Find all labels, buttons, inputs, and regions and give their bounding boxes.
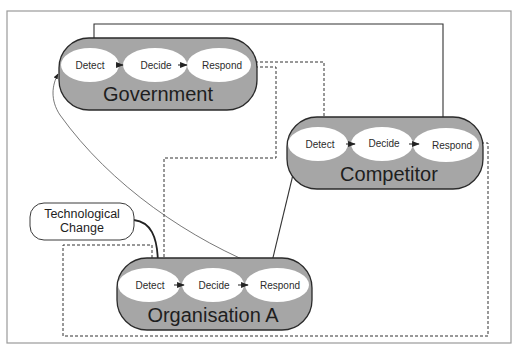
tech-change-line2: Change [60, 221, 104, 235]
organisation-respond-label: Respond [260, 280, 300, 291]
actor-government: Detect Decide Respond Government [59, 38, 257, 110]
tech-change-line1: Technological [44, 207, 120, 221]
competitor-detect-label: Detect [306, 139, 335, 150]
government-respond-label: Respond [202, 60, 242, 71]
external-technological-change: Technological Change [30, 203, 134, 240]
competitor-decide-label: Decide [368, 138, 400, 149]
actor-competitor: Detect Decide Respond Competitor [287, 117, 483, 189]
government-detect-label: Detect [76, 60, 105, 71]
government-decide-label: Decide [140, 60, 172, 71]
organisation-decide-label: Decide [198, 280, 230, 291]
competitor-title: Competitor [340, 163, 438, 185]
government-title: Government [103, 83, 213, 105]
organisation-title: Organisation A [147, 304, 279, 326]
organisation-detect-label: Detect [136, 280, 165, 291]
actor-organisation-a: Detect Decide Respond Organisation A [117, 258, 312, 330]
strategic-interaction-diagram: Detect Decide Respond Government Detect … [0, 0, 518, 356]
competitor-respond-label: Respond [432, 140, 472, 151]
